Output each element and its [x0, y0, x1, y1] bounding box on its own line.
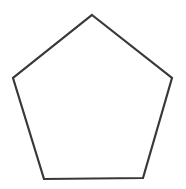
diagram-canvas: [0, 0, 186, 189]
pentagon-shape: [13, 15, 172, 179]
